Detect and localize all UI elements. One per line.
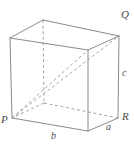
vertex-label-r: R bbox=[122, 111, 129, 122]
hidden-edge-back-bottom-to-front-bottom-left bbox=[12, 103, 44, 118]
edge-q-to-r bbox=[118, 36, 119, 118]
cuboid-svg bbox=[0, 0, 134, 145]
edge-front-top-left-to-front-top-right bbox=[10, 38, 88, 50]
vertex-label-p: P bbox=[1, 114, 8, 125]
edge-front-bottom-right-to-front-bottom-left bbox=[12, 118, 88, 131]
edge-front-bottom-left-to-front-top-left bbox=[10, 38, 12, 118]
edge-r-to-front-bottom-right bbox=[88, 118, 118, 131]
edge-label-c: c bbox=[122, 68, 126, 78]
hidden-diagonal-p-to-q bbox=[12, 36, 119, 118]
edge-front-top-left-to-back-top bbox=[10, 20, 43, 38]
hidden-diagonal-p-to-front-top-right bbox=[12, 50, 88, 118]
cuboid-figure: P Q R a b c bbox=[0, 0, 134, 145]
hidden-edge-back-bottom-to-r bbox=[44, 103, 118, 118]
vertex-label-q: Q bbox=[121, 9, 129, 20]
edge-label-a: a bbox=[106, 122, 111, 132]
edge-front-top-right-to-q bbox=[88, 36, 119, 50]
edge-back-top-to-q bbox=[43, 20, 119, 36]
edge-label-b: b bbox=[51, 131, 56, 141]
